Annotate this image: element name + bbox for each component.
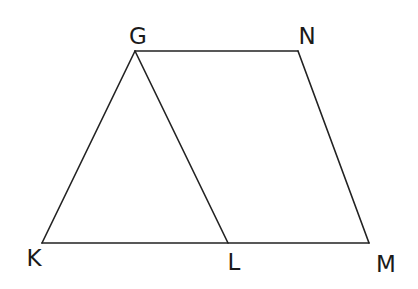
- segment-gl: [135, 51, 228, 243]
- vertex-label-k: K: [26, 245, 42, 271]
- segment-gk: [42, 51, 135, 243]
- vertex-label-l: L: [228, 249, 241, 275]
- vertex-label-n: N: [298, 23, 315, 49]
- vertex-label-g: G: [129, 23, 147, 49]
- segment-nm: [298, 51, 369, 243]
- geometry-diagram: G N K L M: [0, 0, 418, 289]
- vertex-label-m: M: [376, 251, 396, 277]
